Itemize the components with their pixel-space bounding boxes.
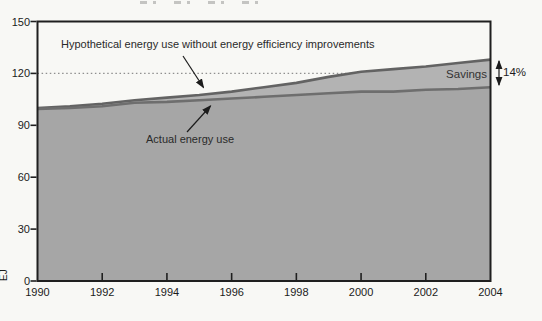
x-tick-label: 2004 bbox=[473, 286, 509, 298]
actual-annotation: Actual energy use bbox=[146, 133, 234, 145]
x-tick-label: 1998 bbox=[278, 286, 314, 298]
x-tick-label: 1992 bbox=[84, 286, 120, 298]
x-tick-label: 2000 bbox=[343, 286, 379, 298]
y-tick-label: 120 bbox=[0, 67, 30, 79]
x-tick-label: 2002 bbox=[408, 286, 444, 298]
x-tick-label: 1990 bbox=[20, 286, 56, 298]
y-tick-label: 60 bbox=[0, 171, 30, 183]
x-tick-label: 1994 bbox=[149, 286, 185, 298]
savings-annotation: Savings bbox=[418, 68, 487, 80]
actual-energy-area bbox=[38, 87, 491, 281]
hypothetical-arrow bbox=[183, 56, 204, 88]
x-tick-label: 1996 bbox=[214, 286, 250, 298]
savings-percent-annotation: 14% bbox=[503, 66, 526, 78]
y-tick-label: 90 bbox=[0, 119, 30, 131]
y-tick-label: 150 bbox=[0, 16, 30, 28]
y-tick-label: 0 bbox=[0, 275, 30, 287]
chart-figure: Hypothetical energy use without energy e… bbox=[0, 0, 542, 321]
y-axis-ticks bbox=[31, 22, 37, 282]
hypothetical-annotation: Hypothetical energy use without energy e… bbox=[61, 38, 374, 50]
y-tick-label: 30 bbox=[0, 223, 30, 235]
